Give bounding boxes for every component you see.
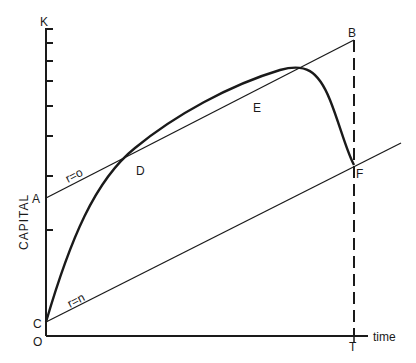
label-E: E [253, 101, 261, 115]
label-T: T [349, 340, 357, 354]
capital-time-diagram: K A C O B D E F T time r=o r=n CAPITAL [0, 0, 416, 363]
y-axis-label: CAPITAL [17, 194, 31, 250]
label-D: D [136, 164, 145, 178]
capital-curve [46, 68, 354, 322]
x-axis-label: time [373, 330, 396, 344]
label-K: K [40, 15, 48, 29]
line-r-equals-n [46, 143, 401, 322]
label-A: A [32, 192, 40, 206]
label-C: C [33, 317, 42, 331]
label-F: F [356, 167, 363, 181]
line-label-r-equals-o: r=o [63, 165, 85, 186]
y-axis-ticks [46, 29, 53, 230]
line-label-r-equals-n: r=n [65, 290, 87, 311]
label-B: B [348, 26, 356, 40]
label-O: O [33, 335, 42, 349]
line-r-equals-o [46, 40, 354, 198]
